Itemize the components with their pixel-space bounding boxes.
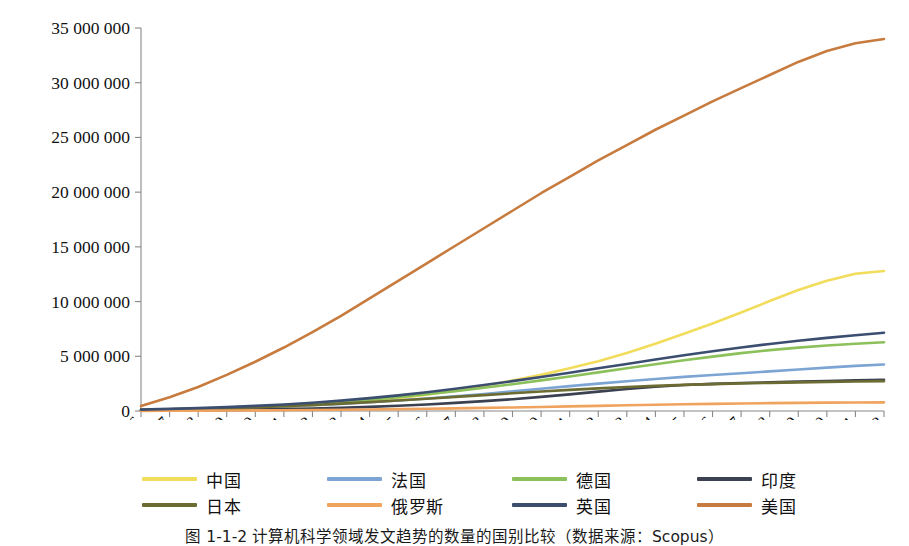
legend-item[interactable]: 俄罗斯	[327, 493, 512, 518]
x-axis-tick-label: 2003	[309, 413, 344, 420]
legend-item[interactable]: 日本	[142, 493, 327, 518]
x-axis-tick-label: 1997	[137, 413, 172, 420]
legend-label: 法国	[391, 467, 426, 492]
legend-label: 美国	[761, 493, 796, 518]
legend-item[interactable]: 法国	[327, 467, 512, 492]
legend-color-swatch	[697, 477, 752, 481]
x-axis-tick-label: 2006	[394, 413, 429, 420]
legend-color-swatch	[512, 477, 567, 481]
y-axis-tick-label: 30 000 000	[51, 73, 130, 93]
legend-color-swatch	[142, 477, 197, 481]
legend-label: 印度	[761, 467, 796, 492]
legend-color-swatch	[512, 503, 567, 507]
series-line-中国	[141, 271, 884, 410]
x-axis-tick-label: 2020	[794, 413, 829, 420]
legend-label: 中国	[206, 467, 241, 492]
x-axis-tick-label: 2007	[423, 413, 458, 420]
legend-color-swatch	[142, 503, 197, 507]
figure-caption: 图 1-1-2 计算机科学领域发文趋势的数量的国别比较（数据来源：Scopus）	[0, 524, 909, 546]
y-axis-tick-label: 5 000 000	[60, 346, 130, 366]
legend-label: 俄罗斯	[391, 493, 444, 518]
x-axis-tick-label: 1999	[194, 413, 229, 420]
x-axis-tick-label: 2000	[223, 413, 258, 420]
legend-item[interactable]: 印度	[697, 467, 882, 492]
chart-legend: 中国法国德国印度日本俄罗斯英国美国	[142, 466, 882, 518]
y-axis-tick-label: 10 000 000	[51, 292, 130, 312]
line-chart: 35 000 00030 000 00025 000 00020 000 000…	[0, 0, 909, 420]
x-axis-tick-label: 2019	[766, 413, 801, 420]
x-axis-tick-label: 2018	[737, 413, 772, 420]
x-axis-tick-label: 2013	[594, 413, 629, 420]
x-axis-tick-label: 2017	[709, 413, 744, 420]
legend-label: 英国	[576, 493, 611, 518]
x-axis-tick-label: 2002	[280, 413, 315, 420]
x-axis-tick-label: 2005	[366, 413, 401, 420]
x-axis-tick-label: 2012	[566, 413, 601, 420]
x-axis-tick-label: 2011	[538, 413, 572, 420]
x-axis-tick-label: 2016	[680, 413, 715, 420]
x-axis-tick-label: 2010	[509, 413, 544, 420]
legend-color-swatch	[327, 477, 382, 481]
legend-label: 德国	[576, 467, 611, 492]
legend-item[interactable]: 美国	[697, 493, 882, 518]
x-axis-tick-label: 2001	[251, 413, 286, 420]
x-axis-tick-label: 2015	[651, 413, 686, 420]
y-axis-tick-label: 15 000 000	[51, 237, 130, 257]
x-axis-tick-label: 2009	[480, 413, 515, 420]
x-axis-tick-label: 1998	[166, 413, 201, 420]
legend-color-swatch	[697, 503, 752, 507]
x-axis-tick-label: 2022	[851, 413, 886, 420]
chart-plot-area: 35 000 00030 000 00025 000 00020 000 000…	[0, 0, 909, 420]
y-axis-tick-label: 20 000 000	[51, 182, 130, 202]
legend-item[interactable]: 英国	[512, 493, 697, 518]
x-axis-tick-label: 2021	[823, 413, 858, 420]
x-axis-tick-label: 2008	[451, 413, 486, 420]
y-axis-tick-label: 35 000 000	[51, 18, 130, 38]
y-axis-tick-label: 25 000 000	[51, 127, 130, 147]
legend-item[interactable]: 中国	[142, 467, 327, 492]
legend-item[interactable]: 德国	[512, 467, 697, 492]
x-axis-tick-label: 2014	[623, 413, 658, 420]
legend-label: 日本	[206, 493, 241, 518]
legend-color-swatch	[327, 503, 382, 507]
x-axis-tick-label: 2004	[337, 413, 372, 420]
